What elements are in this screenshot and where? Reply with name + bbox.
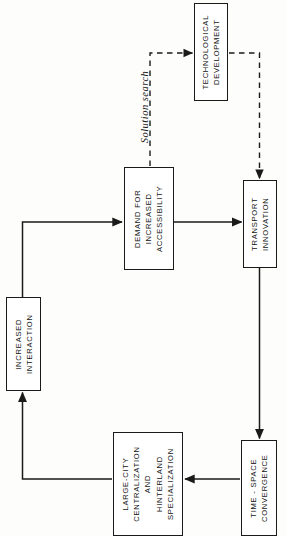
node-transport-innovation[interactable]: TRANSPORT INNOVATION — [243, 180, 277, 268]
node-technological-development[interactable]: TECHNOLOGICAL DEVELOPMENT — [194, 3, 228, 101]
node-demand-accessibility-label: DEMAND FOR INCREASED ACCESSIBILITY — [132, 185, 166, 251]
node-large-city-label: LARGE-CITY CENTRALIZATION AND HINTERLAND… — [120, 446, 176, 521]
node-time-space-convergence[interactable]: TIME - SPACE CONVERGENCE — [241, 440, 277, 536]
edge-label-solution-search: Solution search — [136, 52, 152, 162]
edge-label-solution-search-text: Solution search — [139, 71, 150, 144]
diagram-canvas: TECHNOLOGICAL DEVELOPMENT DEMAND FOR INC… — [0, 0, 286, 536]
node-large-city[interactable]: LARGE-CITY CENTRALIZATION AND HINTERLAND… — [113, 432, 183, 536]
edge-large-city-to-increased-interaction — [23, 393, 113, 480]
node-time-space-convergence-label: TIME - SPACE CONVERGENCE — [248, 454, 270, 522]
node-increased-interaction-label: INCREASED INTERACTION — [12, 314, 34, 374]
node-transport-innovation-label: TRANSPORT INNOVATION — [249, 197, 271, 251]
node-technological-development-label: TECHNOLOGICAL DEVELOPMENT — [200, 15, 222, 90]
node-increased-interaction[interactable]: INCREASED INTERACTION — [6, 297, 41, 391]
edge-increased-interaction-to-demand — [23, 222, 123, 297]
edge-technological-development-to-transport-innovation — [229, 53, 260, 179]
edge-demand-to-technological-development — [150, 53, 193, 166]
node-demand-accessibility[interactable]: DEMAND FOR INCREASED ACCESSIBILITY — [124, 167, 174, 270]
